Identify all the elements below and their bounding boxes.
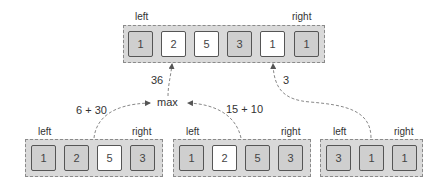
top-right-label: right [292,11,311,22]
br-right-label: right [394,126,413,137]
bottom-left-array: 1 2 5 3 [25,139,163,177]
bm-cell-3: 3 [278,145,303,171]
bottom-right-array: 3 1 1 [320,139,423,177]
br-cell-2: 1 [392,145,417,171]
br-left-label: left [333,126,346,137]
left-sum-label: 6 + 30 [76,104,107,116]
bl-cell-1: 2 [64,145,89,171]
bl-right-label: right [132,126,151,137]
bm-cell-2: 5 [245,145,270,171]
right-result-label: 3 [283,74,289,86]
top-cell-0: 1 [128,31,153,57]
bl-cell-2: 5 [97,145,122,171]
max-label: max [157,96,178,108]
bm-cell-1: 2 [212,145,237,171]
bm-left-label: left [186,126,199,137]
bl-left-label: left [38,126,51,137]
br-cell-0: 3 [326,145,351,171]
middle-sum-label: 15 + 10 [226,103,263,115]
top-cell-1: 2 [161,31,186,57]
bl-cell-0: 1 [31,145,56,171]
top-cell-3: 3 [227,31,252,57]
top-cell-2: 5 [194,31,219,57]
br-cell-1: 1 [359,145,384,171]
top-left-label: left [135,11,148,22]
top-cell-5: 1 [294,31,319,57]
max-result-label: 36 [151,74,163,86]
bm-cell-0: 1 [179,145,204,171]
top-cell-4: 1 [260,31,285,57]
top-array: 1 2 5 3 1 1 [123,25,325,63]
bottom-middle-array: 1 2 5 3 [173,139,311,177]
arrow-max-to-top [168,64,172,96]
bm-right-label: right [281,126,300,137]
bl-cell-3: 3 [130,145,155,171]
